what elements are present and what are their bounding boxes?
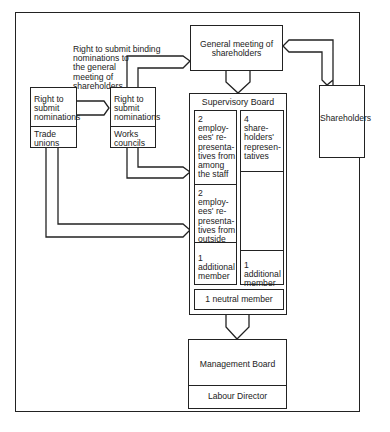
- labour-director-label: Labour Director: [189, 392, 286, 401]
- trade-unions-label: Trade unions: [34, 130, 59, 148]
- trade-unions-right-label: Right to submit nominations: [34, 95, 80, 123]
- general-meeting-label: General meeting of shareholders: [191, 40, 282, 58]
- supervisory-board-title: Supervisory Board: [190, 98, 286, 107]
- divider: [189, 385, 286, 386]
- neutral-member-label: 1 neutral member: [195, 295, 283, 304]
- general-meeting-box: General meeting of shareholders: [190, 25, 283, 71]
- shareholder-reps-column: 4 share- holders' represen- tatives 1 ad…: [240, 110, 284, 285]
- annotation-binding-nominations: Right to submit binding nominations to t…: [73, 45, 183, 91]
- trade-unions-box: Right to submit nominations Trade unions: [30, 87, 77, 148]
- divider: [195, 242, 236, 243]
- employee-reps-outside: 2 employ- ees' re- presenta- tives from …: [198, 189, 235, 244]
- shareholders-label: Shareholders: [320, 114, 364, 123]
- divider: [241, 171, 283, 172]
- neutral-member-box: 1 neutral member: [194, 289, 284, 310]
- divider: [31, 126, 76, 127]
- divider: [111, 126, 155, 127]
- works-councils-box: Right to submit nominations Works counci…: [110, 87, 156, 148]
- shareholders-box: Shareholders: [319, 85, 365, 158]
- additional-member-right: 1 additional member: [244, 261, 281, 289]
- works-councils-label: Works councils: [114, 130, 145, 148]
- management-board-box: Management Board Labour Director: [188, 339, 287, 409]
- employee-reps-column: 2 employ- ees' re- presenta- tives from …: [194, 110, 237, 285]
- divider: [241, 250, 283, 251]
- works-councils-right-label: Right to submit nominations: [114, 95, 160, 123]
- shareholder-reps: 4 share- holders' represen- tatives: [244, 115, 281, 161]
- management-board-label: Management Board: [189, 360, 286, 369]
- divider: [195, 184, 236, 185]
- additional-member-left: 1 additional member: [198, 254, 235, 282]
- supervisory-board-box: Supervisory Board 2 employ- ees' re- pre…: [189, 93, 287, 315]
- employee-reps-staff: 2 employ- ees' re- presenta- tives from …: [198, 115, 235, 179]
